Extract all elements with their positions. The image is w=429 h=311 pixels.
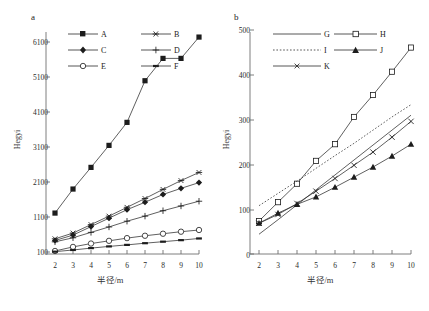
series-D-point-2 — [88, 229, 94, 235]
chart-panel-b: b Hegyi 半径/m 500 400 300 200 100 0 2 3 4… — [214, 0, 428, 311]
series-J-point-5 — [351, 174, 357, 180]
series-J-point-3 — [313, 194, 319, 200]
legend-marker-filled-diamond-a — [80, 47, 86, 54]
series-H-point-5 — [351, 114, 356, 119]
series-H-point-4 — [332, 142, 337, 147]
series-A-point-7 — [178, 56, 183, 61]
series-D-point-4 — [124, 218, 130, 224]
series-E-point-2 — [88, 241, 93, 246]
panel-a-y-ticks — [46, 42, 50, 252]
series-J-point-7 — [389, 153, 395, 159]
panel-a-x-ticks — [55, 250, 199, 254]
series-line-G — [259, 115, 411, 234]
panel-a-plot — [0, 0, 214, 311]
series-A-point-5 — [142, 78, 147, 83]
series-K-point-6 — [370, 149, 375, 154]
legend-marker-plus-a — [153, 47, 160, 54]
series-H — [256, 45, 413, 224]
series-F-point-4 — [124, 244, 130, 246]
series-E-point-5 — [142, 233, 147, 238]
panel-b-legend-samples — [273, 31, 377, 68]
panel-b-y-ticks — [250, 30, 254, 254]
series-D-point-5 — [142, 213, 148, 219]
series-line-K — [259, 121, 411, 223]
series-line-I — [259, 105, 411, 206]
series-H-point-7 — [389, 69, 394, 74]
series-D-point-7 — [178, 203, 184, 209]
series-H-point-2 — [294, 181, 299, 186]
series-line-B — [55, 172, 199, 238]
series-line-J — [259, 144, 411, 223]
series-B-point-7 — [178, 178, 184, 183]
legend-marker-filled-square-a — [80, 31, 85, 36]
series-B-point-6 — [160, 187, 166, 192]
series-F-point-2 — [88, 247, 94, 249]
series-K-point-8 — [408, 119, 413, 124]
legend-marker-open-diamond-a — [80, 63, 85, 68]
series-A-point-2 — [88, 165, 93, 170]
series-H-point-8 — [408, 45, 413, 50]
series-line-A — [55, 37, 199, 213]
panel-a-legend-samples — [68, 31, 171, 69]
panel-b-series-group — [256, 45, 414, 234]
series-A-point-6 — [160, 56, 165, 61]
series-E-point-7 — [178, 229, 183, 234]
series-F-point-1 — [70, 249, 76, 251]
series-E-point-6 — [160, 231, 165, 236]
series-F-point-6 — [160, 241, 166, 243]
series-A-point-3 — [106, 143, 111, 148]
series-H-point-3 — [313, 158, 318, 163]
chart-panel-a: a Hegyi 半径/m 6100 5100 4100 3100 2100 11… — [0, 0, 214, 311]
panel-b-x-ticks — [259, 250, 411, 254]
series-K-point-5 — [351, 163, 356, 168]
series-A-point-8 — [196, 34, 201, 39]
series-G — [259, 115, 411, 234]
series-F-point-7 — [178, 239, 184, 241]
figure-root: a Hegyi 半径/m 6100 5100 4100 3100 2100 11… — [0, 0, 429, 311]
figure-caption — [0, 301, 429, 311]
series-J-point-6 — [370, 164, 376, 170]
panel-a-series-group — [52, 34, 202, 253]
series-E-point-3 — [106, 238, 111, 243]
series-E-point-8 — [196, 227, 201, 232]
series-B-point-8 — [196, 170, 202, 175]
series-F-point-8 — [196, 237, 202, 239]
series-K-point-4 — [332, 176, 337, 181]
series-F-point-3 — [106, 245, 112, 247]
series-I — [259, 105, 411, 206]
series-F-point-5 — [142, 242, 148, 244]
series-H-point-6 — [370, 92, 375, 97]
panel-b-plot — [214, 0, 428, 311]
series-A-point-4 — [124, 120, 129, 125]
series-C-point-8 — [196, 180, 202, 186]
series-D-point-8 — [196, 198, 202, 204]
series-D-point-3 — [106, 224, 112, 230]
series-E-point-1 — [70, 244, 75, 249]
series-A-point-1 — [70, 186, 75, 191]
series-J-point-8 — [408, 141, 414, 147]
series-F-point-0 — [52, 251, 58, 253]
series-K — [256, 119, 413, 226]
series-A-point-0 — [52, 210, 57, 215]
legend-marker-open-square-b — [353, 31, 358, 36]
series-C-point-6 — [160, 191, 166, 197]
series-C-point-5 — [142, 199, 148, 205]
series-line-H — [259, 48, 411, 221]
series-J-point-4 — [332, 184, 338, 190]
series-C-point-7 — [178, 185, 184, 191]
series-D-point-6 — [160, 208, 166, 214]
series-K-point-7 — [389, 134, 394, 139]
series-H-point-1 — [275, 200, 280, 205]
legend-marker-asterisk-a — [153, 31, 159, 36]
series-E-point-4 — [124, 235, 129, 240]
